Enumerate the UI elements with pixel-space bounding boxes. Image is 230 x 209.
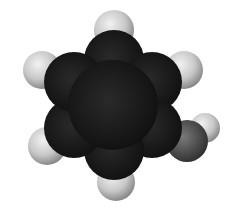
molecule-model — [0, 0, 230, 209]
carbon-ring — [44, 30, 182, 180]
